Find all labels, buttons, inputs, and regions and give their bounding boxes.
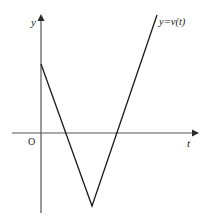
curve-v-of-t [41,15,157,206]
y-axis-arrow-icon [37,14,44,21]
origin-label: O [28,137,35,147]
t-axis [12,129,199,136]
velocity-graph-figure: y t O y=v(t) [0,0,203,223]
curve-equation-label: y=v(t) [159,17,185,28]
plot-canvas [0,0,203,223]
t-axis-arrow-icon [192,129,199,136]
t-axis-label: t [187,138,190,149]
y-axis-label: y [31,17,36,28]
y-axis [37,14,44,213]
